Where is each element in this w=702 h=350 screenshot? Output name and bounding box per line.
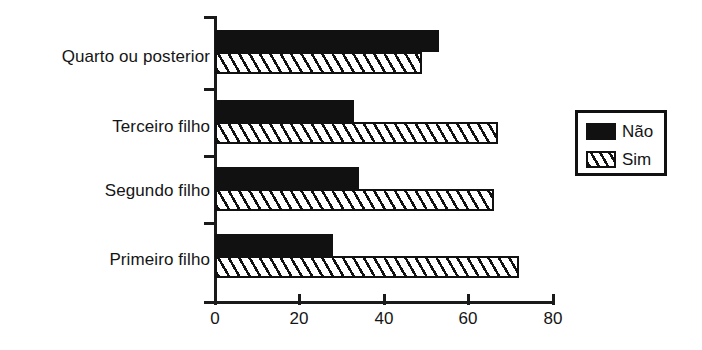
y-axis-tick	[204, 222, 215, 225]
legend-entry-sim: Sim	[586, 148, 651, 170]
bar-sim-terceiro-filho	[215, 122, 498, 144]
category-label-segundo-filho: Segundo filho	[105, 182, 210, 199]
x-axis-tick-40	[383, 294, 386, 305]
category-label-terceiro-filho: Terceiro filho	[112, 118, 210, 135]
x-axis-label-0: 0	[192, 310, 238, 327]
x-axis-tick-80	[552, 294, 555, 305]
x-axis-tick-60	[467, 294, 470, 305]
legend: Não Sim	[575, 110, 667, 176]
bar-sim-quarto-ou-posterior	[215, 52, 422, 74]
legend-label-sim: Sim	[622, 151, 651, 168]
legend-entry-nao: Não	[586, 120, 653, 142]
y-axis-tick	[204, 155, 215, 158]
bar-nao-quarto-ou-posterior	[215, 30, 439, 52]
bar-chart: Quarto ou posterior Terceiro filho Segun…	[0, 0, 702, 350]
legend-swatch-sim-icon	[586, 151, 616, 168]
legend-swatch-nao-icon	[586, 123, 616, 140]
x-axis-label-60: 60	[445, 310, 491, 327]
x-axis-label-80: 80	[530, 310, 576, 327]
category-label-quarto-ou-posterior: Quarto ou posterior	[62, 48, 210, 65]
bar-nao-terceiro-filho	[215, 100, 354, 122]
x-axis-tick-20	[298, 294, 301, 305]
x-axis-label-40: 40	[361, 310, 407, 327]
y-axis-tick	[204, 88, 215, 91]
bar-nao-primeiro-filho	[215, 234, 333, 256]
bar-sim-primeiro-filho	[215, 256, 519, 278]
category-label-primeiro-filho: Primeiro filho	[109, 251, 210, 268]
x-axis-tick-0	[214, 294, 217, 305]
x-axis-label-20: 20	[276, 310, 322, 327]
legend-label-nao: Não	[622, 123, 653, 140]
bar-sim-segundo-filho	[215, 189, 494, 211]
bar-nao-segundo-filho	[215, 167, 359, 189]
y-axis-tick	[204, 16, 215, 19]
